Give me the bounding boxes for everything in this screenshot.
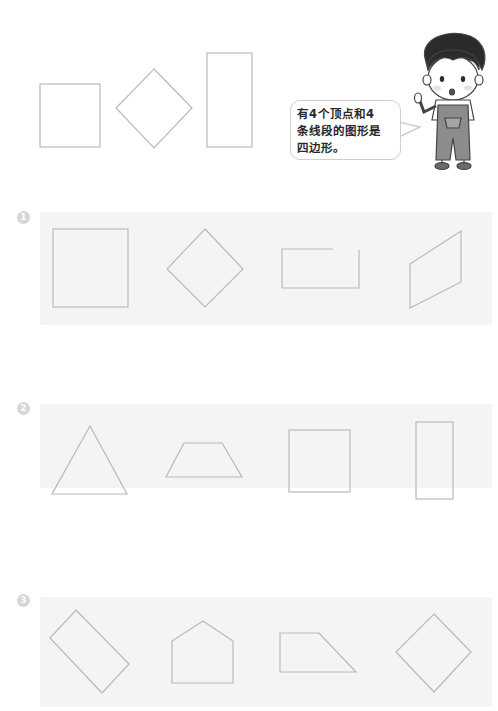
- ex3-diamond-shape: [396, 614, 471, 692]
- ex1-open-rectangle-shape: [282, 249, 359, 288]
- ex3-pentagon-shape: [172, 621, 233, 683]
- ex1-square-shape: [53, 229, 128, 307]
- ex1-parallelogram-shape: [410, 231, 461, 308]
- ex2-triangle-shape: [52, 426, 127, 494]
- speech-bubble: 有4个顶点和4 条线段的图形是 四边形。: [290, 100, 401, 160]
- boy-pointing-icon: [415, 33, 485, 169]
- intro-square-shape: [40, 84, 100, 147]
- ex2-trapezoid-shape: [166, 443, 242, 477]
- ex3-rotated-rectangle-shape: [50, 610, 129, 693]
- ex1-diamond-shape: [167, 229, 243, 307]
- speech-bubble-tail: [399, 122, 420, 137]
- shapes-canvas: [0, 0, 498, 711]
- ex3-right-trapezoid-shape: [280, 633, 356, 672]
- intro-rectangle-shape: [207, 53, 252, 147]
- ex2-tall-rectangle-shape: [416, 422, 453, 499]
- intro-diamond-shape: [116, 69, 192, 148]
- speech-bubble-text: 有4个顶点和4 条线段的图形是 四边形。: [297, 106, 394, 157]
- ex2-square-shape: [289, 430, 350, 492]
